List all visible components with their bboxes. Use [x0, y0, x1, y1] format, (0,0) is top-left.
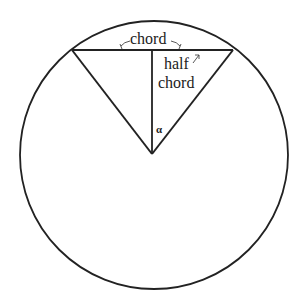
half-chord-label-line1: half: [164, 55, 190, 72]
chord-bracket-right-icon: [171, 41, 180, 46]
angle-alpha-label: α: [156, 123, 163, 135]
chord-diagram: chord half chord α: [0, 0, 300, 304]
chord-bracket-left-icon: [121, 41, 130, 46]
arrow-icon: [193, 55, 199, 63]
half-chord-label-line2: chord: [158, 74, 194, 91]
circle: [20, 21, 288, 289]
chord-label: chord: [130, 30, 166, 47]
radius-left: [72, 50, 152, 154]
